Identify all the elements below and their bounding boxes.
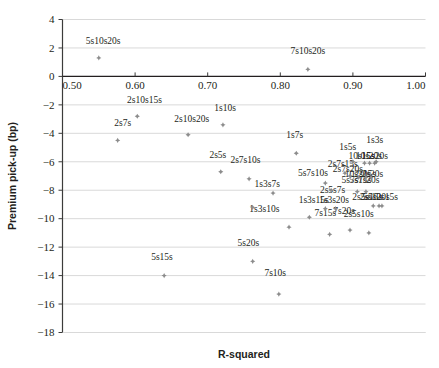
y-tick-label: −4 (43, 127, 55, 139)
data-point-label: 1s10s (214, 103, 236, 113)
marker-glyph (96, 55, 101, 60)
chart-canvas: 420−2−4−6−8−10−12−14−16−18 0.500.600.700… (0, 0, 439, 368)
data-marker (327, 232, 332, 237)
data-point-labels: 5s10s20s7s10s20s2s10s15s2s7s2s10s20s1s10… (86, 36, 398, 278)
marker-glyph (246, 176, 251, 181)
data-marker (218, 169, 223, 174)
data-point-label: 2s5s10s (344, 209, 374, 219)
marker-glyph (305, 67, 310, 72)
data-point-label: 2s10s15s (127, 95, 162, 105)
scatter-chart: 420−2−4−6−8−10−12−14−16−18 0.500.600.700… (0, 0, 439, 368)
data-marker (115, 138, 120, 143)
x-tick-label: 0.50 (63, 79, 83, 91)
y-tick-label: −12 (37, 241, 54, 253)
y-tick-label: −14 (37, 269, 55, 281)
data-point-label: 2s10s20s (174, 114, 209, 124)
y-tick-label: −6 (43, 156, 55, 168)
data-marker (294, 151, 299, 156)
data-point-label: 5s10s20s (86, 36, 121, 46)
data-point-label: 5s10s15s (363, 192, 398, 202)
marker-glyph (135, 114, 140, 119)
marker-glyph (379, 203, 384, 208)
data-marker (286, 225, 291, 230)
marker-glyph (347, 227, 352, 232)
data-marker (246, 176, 251, 181)
y-tick-label: −18 (37, 326, 55, 338)
x-tick-label: 0.90 (343, 79, 363, 91)
marker-glyph (276, 291, 281, 296)
marker-glyph (250, 259, 255, 264)
marker-glyph (371, 203, 376, 208)
marker-glyph (366, 230, 371, 235)
data-point-label: 1s3s10s (249, 204, 279, 214)
data-marker (347, 227, 352, 232)
data-marker (220, 122, 225, 127)
data-marker (276, 291, 281, 296)
data-marker (135, 114, 140, 119)
data-point-label: 7s10s (264, 268, 286, 278)
data-marker (250, 259, 255, 264)
data-point-label: 2s5s (209, 150, 226, 160)
x-tick-label: 1.00 (406, 79, 426, 91)
data-point-label: 2s7s10s (230, 155, 260, 165)
data-point-label: 5s20s (238, 238, 260, 248)
marker-glyph (270, 190, 275, 195)
y-axis-tick-labels: 420−2−4−6−8−10−12−14−16−18 (37, 13, 55, 338)
data-point-label: 1s3s20s (319, 195, 349, 205)
data-point-label: 5s15s (151, 252, 173, 262)
data-point-label: 1s3s (366, 135, 383, 145)
data-marker (371, 203, 376, 208)
marker-glyph (327, 232, 332, 237)
marker-glyph (294, 151, 299, 156)
data-point-label: 2s7s (114, 118, 131, 128)
y-tick-label: −2 (43, 99, 55, 111)
y-tick-label: 0 (49, 70, 55, 82)
y-tick-label: −16 (37, 298, 55, 310)
y-axis-title: Premium pick-up (bp) (6, 122, 18, 230)
data-point-label: 5s7s20s (349, 175, 379, 185)
marker-glyph (220, 122, 225, 127)
x-axis-tick-labels: 0.500.600.700.800.901.00 (63, 79, 427, 91)
data-marker (270, 190, 275, 195)
data-point-label: 1s3s7s (255, 179, 281, 189)
marker-glyph (115, 138, 120, 143)
x-tick-label: 0.60 (125, 79, 145, 91)
y-tick-label: 2 (49, 42, 55, 54)
data-point-label: 7s10s20s (290, 46, 325, 56)
data-point-label: 15s20s (361, 151, 388, 161)
y-tick-label: −10 (37, 212, 55, 224)
marker-glyph (286, 225, 291, 230)
data-marker (162, 273, 167, 278)
marker-glyph (218, 169, 223, 174)
data-point-label: 1s7s (286, 130, 303, 140)
y-tick-label: −8 (43, 184, 55, 196)
data-marker (305, 67, 310, 72)
x-tick-label: 0.80 (271, 79, 291, 91)
data-marker (96, 55, 101, 60)
y-tick-label: 4 (49, 13, 55, 25)
data-marker (379, 203, 384, 208)
data-marker (366, 230, 371, 235)
data-point-label: 5s7s10s (298, 168, 328, 178)
marker-glyph (162, 273, 167, 278)
x-axis-title: R-squared (218, 348, 270, 360)
x-tick-label: 0.70 (198, 79, 218, 91)
